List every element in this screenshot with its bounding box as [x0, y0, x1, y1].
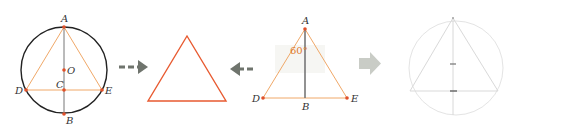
label-o: O [67, 65, 75, 76]
label-a: A [301, 15, 309, 26]
label-d: D [14, 85, 23, 96]
label-e: E [350, 93, 359, 104]
equilateral-triangle [148, 36, 226, 101]
arrow-right-solid-icon [359, 52, 381, 75]
label-a: A [60, 13, 68, 24]
faint-triangle [410, 18, 498, 91]
label-c: C [56, 79, 64, 90]
panel-triangle-altitude: A B D E 60° [251, 15, 359, 112]
label-d: D [251, 93, 260, 104]
label-b: B [301, 101, 309, 112]
angle-label-60: 60° [290, 45, 308, 56]
point-o [62, 68, 66, 72]
arrow-right-dashed-icon [119, 60, 148, 74]
label-e: E [104, 85, 113, 96]
point-a [303, 27, 307, 31]
point-a [62, 25, 66, 29]
point-d [261, 96, 265, 100]
panel-circle-inscribed-triangle: A B C D E O [14, 13, 113, 125]
faint-point-a [452, 17, 454, 19]
label-b: B [65, 115, 73, 125]
diagram-canvas: A B C D E O A B D E 60° [0, 0, 565, 125]
point-d [24, 88, 28, 92]
panel-equilateral-triangle [148, 36, 226, 101]
point-e [345, 96, 349, 100]
point-e [100, 88, 104, 92]
panel-faint-sketch [409, 17, 503, 115]
arrow-left-dashed-icon [230, 62, 253, 76]
